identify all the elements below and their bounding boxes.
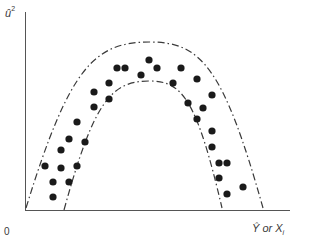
data-point bbox=[215, 174, 222, 181]
data-point bbox=[49, 178, 56, 185]
data-point bbox=[105, 95, 112, 102]
data-point bbox=[57, 146, 64, 153]
data-point bbox=[169, 79, 176, 86]
data-point bbox=[193, 115, 200, 122]
y-axis-label: û2 bbox=[5, 5, 15, 19]
data-point bbox=[73, 162, 80, 169]
data-point bbox=[208, 143, 215, 150]
data-point bbox=[145, 56, 152, 63]
data-point bbox=[105, 79, 112, 86]
outer-envelope-curve bbox=[26, 42, 263, 208]
data-point bbox=[208, 91, 215, 98]
data-point bbox=[153, 64, 160, 71]
data-point bbox=[239, 183, 246, 190]
data-point bbox=[208, 127, 215, 134]
data-point bbox=[223, 159, 230, 166]
data-point bbox=[113, 64, 120, 71]
data-point bbox=[184, 99, 191, 106]
x-axis-label: Ŷ or Xi bbox=[252, 222, 284, 236]
data-point bbox=[223, 190, 230, 197]
data-point bbox=[57, 164, 64, 171]
data-point bbox=[177, 64, 184, 71]
data-point bbox=[81, 138, 88, 145]
data-point bbox=[65, 178, 72, 185]
data-point bbox=[73, 118, 80, 125]
scatter-plot bbox=[0, 0, 310, 241]
data-point bbox=[65, 135, 72, 142]
data-point bbox=[90, 88, 97, 95]
origin-label: 0 bbox=[4, 226, 10, 237]
data-point bbox=[215, 159, 222, 166]
data-point bbox=[49, 193, 56, 200]
data-point bbox=[121, 64, 128, 71]
data-point bbox=[199, 104, 206, 111]
data-point bbox=[137, 71, 144, 78]
data-point bbox=[41, 162, 48, 169]
data-points bbox=[41, 56, 246, 200]
data-point bbox=[90, 103, 97, 110]
data-point bbox=[193, 75, 200, 82]
inner-envelope-curve bbox=[64, 81, 222, 210]
